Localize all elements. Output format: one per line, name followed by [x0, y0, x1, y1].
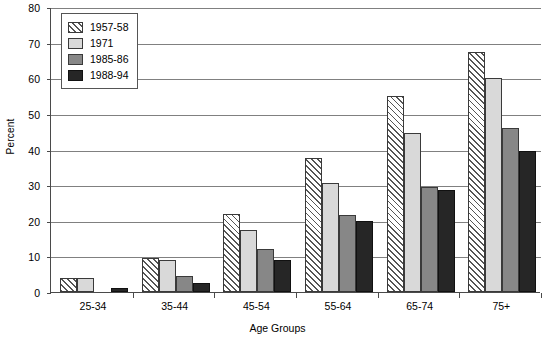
y-tick-mark	[47, 222, 51, 223]
y-tick-mark	[47, 44, 51, 45]
x-tick-mark	[541, 293, 542, 298]
bar	[468, 52, 485, 292]
y-tick-label: 80	[14, 3, 40, 13]
legend-swatch-icon	[68, 22, 83, 33]
bar	[387, 96, 404, 292]
legend-item: 1988-94	[68, 67, 129, 83]
y-tick-label: 20	[14, 217, 40, 227]
x-tick-label: 45-54	[216, 300, 296, 312]
legend-swatch-icon	[68, 38, 83, 49]
x-tick-mark	[133, 293, 134, 298]
legend-swatch-icon	[68, 70, 83, 81]
bar-chart: Percent 01020304050607080 25-3435-4445-5…	[0, 0, 555, 340]
y-tick-mark	[47, 186, 51, 187]
legend-item: 1957-58	[68, 19, 129, 35]
bar	[519, 151, 536, 292]
legend-item: 1985-86	[68, 51, 129, 67]
y-tick-label: 0	[14, 288, 40, 298]
bar	[421, 187, 438, 292]
bar	[274, 260, 291, 292]
x-tick-label: 75+	[461, 300, 541, 312]
bar	[111, 288, 128, 292]
y-tick-label: 60	[14, 74, 40, 84]
x-tick-mark	[459, 293, 460, 298]
y-axis-title: Percent	[5, 97, 16, 177]
bar	[60, 278, 77, 292]
y-tick-mark	[47, 8, 51, 9]
legend-label: 1971	[90, 37, 113, 49]
x-tick-label: 35-44	[135, 300, 215, 312]
bar	[257, 249, 274, 292]
legend-label: 1985-86	[90, 53, 129, 65]
legend: 1957-5819711985-861988-94	[61, 13, 138, 89]
x-tick-mark	[296, 293, 297, 298]
y-tick-label: 70	[14, 39, 40, 49]
x-tick-label: 55-64	[298, 300, 378, 312]
legend-label: 1988-94	[90, 69, 129, 81]
bar	[322, 183, 339, 292]
y-tick-label: 50	[14, 110, 40, 120]
bar	[77, 278, 94, 292]
bar	[502, 128, 519, 292]
bar	[339, 215, 356, 292]
x-axis-title: Age Groups	[0, 322, 555, 334]
bar	[159, 260, 176, 292]
bar	[142, 258, 159, 292]
y-tick-mark	[47, 79, 51, 80]
y-tick-mark	[47, 115, 51, 116]
bar	[404, 133, 421, 292]
legend-item: 1971	[68, 35, 129, 51]
y-tick-mark	[47, 257, 51, 258]
bar	[438, 190, 455, 292]
bar	[223, 214, 240, 292]
legend-swatch-icon	[68, 54, 83, 65]
y-tick-label: 10	[14, 252, 40, 262]
y-tick-mark	[47, 293, 51, 294]
bar	[356, 221, 373, 292]
bar	[193, 283, 210, 292]
bar	[485, 78, 502, 292]
y-tick-label: 30	[14, 181, 40, 191]
x-tick-label: 65-74	[380, 300, 460, 312]
y-tick-mark	[47, 151, 51, 152]
y-tick-label: 40	[14, 146, 40, 156]
bar	[305, 158, 322, 292]
x-tick-label: 25-34	[53, 300, 133, 312]
x-tick-mark	[214, 293, 215, 298]
legend-label: 1957-58	[90, 21, 129, 33]
x-tick-mark	[378, 293, 379, 298]
gridline	[51, 8, 541, 9]
bar	[176, 276, 193, 292]
bar	[240, 230, 257, 292]
